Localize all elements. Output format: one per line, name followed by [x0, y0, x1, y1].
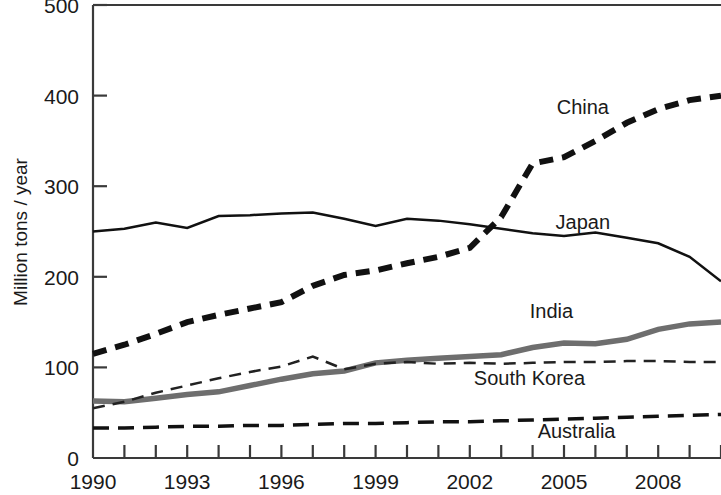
y-tick-label: 0 [67, 447, 79, 470]
y-tick-label: 500 [44, 0, 79, 17]
y-tick-label: 400 [44, 85, 79, 108]
series-line-south-korea [93, 357, 721, 409]
plot-frame [93, 5, 721, 458]
series-line-china [93, 96, 721, 354]
series-label-south-korea: South Korea [474, 367, 586, 389]
data-series-group [93, 96, 721, 429]
y-axis-title: Million tons / year [10, 157, 31, 306]
chart-page: 0100200300400500 19901993199619992002200… [0, 0, 721, 495]
x-tick-label: 1999 [352, 470, 399, 493]
x-tick-label: 1996 [258, 470, 305, 493]
x-tick-label: 1990 [70, 470, 117, 493]
x-tick-label: 1993 [164, 470, 211, 493]
y-tick-label: 100 [44, 356, 79, 379]
x-tick-label: 2008 [635, 470, 682, 493]
series-label-group: ChinaJapanIndiaSouth KoreaAustralia [474, 96, 616, 441]
y-tick-label: 200 [44, 266, 79, 289]
series-label-china: China [557, 96, 610, 118]
series-label-india: India [530, 300, 574, 322]
x-tick-label: 2002 [446, 470, 493, 493]
series-label-australia: Australia [538, 420, 617, 442]
x-axis-ticks [124, 445, 721, 458]
y-axis-ticks [93, 5, 107, 367]
y-axis-tick-labels: 0100200300400500 [44, 0, 79, 470]
y-tick-label: 300 [44, 175, 79, 198]
line-chart: 0100200300400500 19901993199619992002200… [0, 0, 721, 495]
series-line-japan [93, 212, 721, 281]
x-axis-tick-labels: 1990199319961999200220052008 [70, 470, 682, 493]
x-tick-label: 2005 [541, 470, 588, 493]
series-label-japan: Japan [556, 211, 611, 233]
series-line-australia [93, 415, 721, 429]
